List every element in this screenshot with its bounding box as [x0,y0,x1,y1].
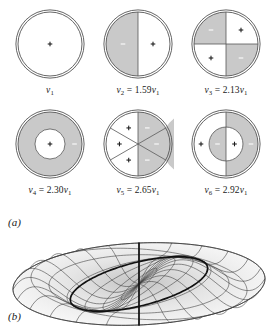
mode-cell-4: ν4 = 2.30ν1 [6,108,94,208]
mode-cell-6: ν6 = 2.92ν1 [182,108,270,208]
panel-a-mode-diagrams: ν1ν2 = 1.59ν1ν3 = 2.13ν1ν4 = 2.30ν1ν5 = … [0,0,278,228]
mode-cell-5: ν5 = 2.65ν1 [94,108,182,208]
panel-b-surface-plot [0,232,278,331]
mode-cell-1: ν1 [6,8,94,108]
mode-5-disc [102,108,174,180]
mode-1-diagram [14,8,86,80]
mode-4-diagram [14,108,86,180]
mode-2-frequency-label: ν2 = 1.59ν1 [116,85,159,95]
mode-2-disc [102,8,174,80]
mode-2-diagram [102,8,174,80]
mode-6-disc [190,108,262,180]
mode-5-frequency-label: ν5 = 2.65ν1 [116,185,159,195]
mode-3-frequency-label: ν3 = 2.13ν1 [204,85,247,95]
mode-6-frequency-label: ν6 = 2.92ν1 [204,185,247,195]
mode-grid: ν1ν2 = 1.59ν1ν3 = 2.13ν1ν4 = 2.30ν1ν5 = … [6,8,272,208]
mode-cell-3: ν3 = 2.13ν1 [182,8,270,108]
mode-6-diagram [190,108,262,180]
mode-4-disc [14,108,86,180]
mode-1-frequency-label: ν1 [46,85,54,95]
mode-3-disc [190,8,262,80]
mode-1-disc [14,8,86,80]
drumhead-surface [0,232,278,331]
mode-3-diagram [190,8,262,80]
mode-4-frequency-label: ν4 = 2.30ν1 [28,185,71,195]
mode-cell-2: ν2 = 1.59ν1 [94,8,182,108]
panel-letter-a: (a) [8,216,21,228]
panel-letter-b: (b) [8,310,21,322]
mode-5-diagram [102,108,174,180]
